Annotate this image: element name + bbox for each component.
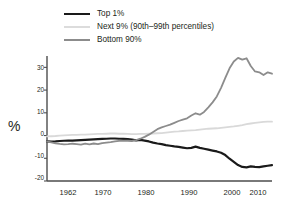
data-series-layer — [47, 58, 272, 168]
plot-area — [0, 0, 281, 210]
chart-container: Top 1% Next 9% (90th–99th percentiles) B… — [0, 0, 281, 210]
axis-spines — [47, 56, 272, 181]
series-line-bottom-90 — [47, 58, 272, 145]
series-line-top-1 — [47, 139, 272, 168]
